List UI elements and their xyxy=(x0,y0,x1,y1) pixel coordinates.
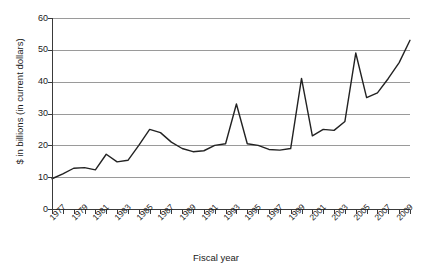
y-axis-tick-labels: 0102030405060 xyxy=(22,0,48,273)
line-chart: $ in billions (in current dollars) 01020… xyxy=(0,0,432,273)
y-axis-tick-label: 50 xyxy=(28,45,48,54)
series-line xyxy=(52,18,410,209)
y-axis-tick-label: 30 xyxy=(28,109,48,118)
y-axis-tick-label: 0 xyxy=(28,205,48,214)
y-axis-tick-label: 20 xyxy=(28,141,48,150)
y-axis-tick-label: 40 xyxy=(28,77,48,86)
x-axis-title: Fiscal year xyxy=(0,252,432,263)
y-axis-line xyxy=(52,18,53,210)
y-axis-tick-label: 60 xyxy=(28,14,48,23)
plot-area xyxy=(52,18,410,209)
x-axis-tick-label: 1977 xyxy=(48,203,68,223)
y-axis-tick-label: 10 xyxy=(28,173,48,182)
